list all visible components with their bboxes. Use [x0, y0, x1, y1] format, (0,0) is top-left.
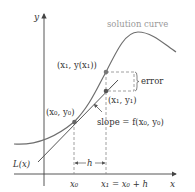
error-label: error [141, 76, 164, 86]
approx-pointer [110, 81, 117, 88]
slope-label: slope = f(x₀, y₀) [97, 117, 164, 127]
tick-x0-label: x₀ [70, 179, 79, 189]
diagram-canvas: y x solution curve (x₁, y(x₁)) error (x₁… [0, 0, 195, 192]
solution-curve [14, 32, 176, 144]
euler-method-diagram: y x solution curve (x₁, y(x₁)) error (x₁… [0, 0, 195, 192]
point-approx [104, 89, 109, 94]
point-approx-label: (x₁, y₁) [108, 95, 136, 105]
tangent-line-label: L(x) [12, 159, 30, 169]
x-axis-label: x [170, 179, 175, 189]
y-axis-label: y [33, 12, 40, 22]
tick-x1-label: x₁ = x₀ + h [101, 179, 148, 189]
step-h-label: h [87, 158, 92, 168]
point-exact [104, 70, 109, 75]
point-initial-label: (x₀, y₀) [46, 107, 74, 117]
point-initial [72, 120, 77, 125]
solution-curve-label: solution curve [107, 19, 168, 29]
error-brace [135, 72, 139, 91]
point-exact-label: (x₁, y(x₁)) [57, 60, 97, 70]
slope-pointer [94, 104, 102, 112]
